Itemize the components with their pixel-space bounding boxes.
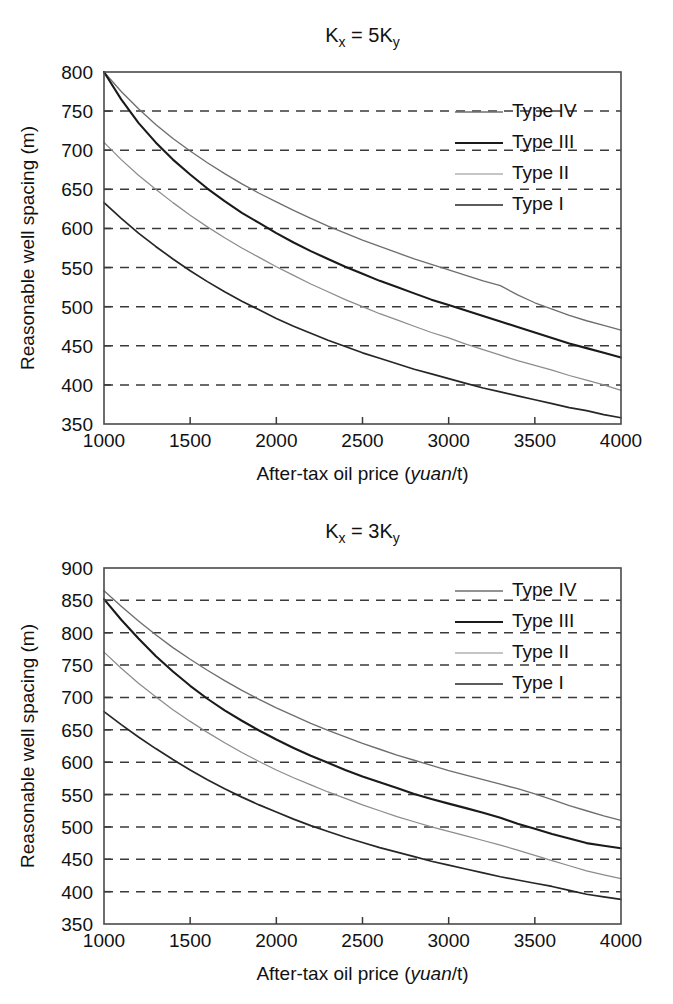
y-tick-label: 400: [61, 882, 93, 903]
x-tick-label: 1000: [83, 430, 125, 451]
legend-label-type-ii: Type II: [512, 162, 569, 183]
y-tick-label: 700: [61, 687, 93, 708]
panel-title: Kx = 3Ky: [325, 520, 400, 546]
x-tick-label: 2500: [341, 430, 383, 451]
y-tick-label: 500: [61, 297, 93, 318]
x-tick-label: 2000: [255, 430, 297, 451]
y-axis-title: Reasonable well spacing (m): [17, 126, 38, 370]
legend-label-type-iii: Type III: [512, 131, 574, 152]
y-tick-label: 750: [61, 655, 93, 676]
series-group: [104, 591, 621, 900]
y-tick-label: 600: [61, 218, 93, 239]
legend: Type IVType IIIType IIType I: [455, 579, 577, 693]
x-axis-title: After-tax oil price (yuan/t): [256, 963, 468, 984]
x-tick-label: 4000: [600, 930, 642, 951]
series-line-type-iii: [104, 599, 621, 848]
chart-panel-bottom: Kx = 3Ky35040045050055060065070075080085…: [0, 496, 673, 1004]
y-tick-label: 450: [61, 849, 93, 870]
y-tick-label: 800: [61, 623, 93, 644]
y-tick-label: 700: [61, 140, 93, 161]
y-tick-label: 550: [61, 258, 93, 279]
legend: Type IVType IIIType IIType I: [455, 100, 577, 214]
y-tick-label: 600: [61, 752, 93, 773]
x-tick-label: 3000: [428, 430, 470, 451]
x-tick-label: 3000: [428, 930, 470, 951]
x-tick-label: 3500: [514, 430, 556, 451]
y-axis-title: Reasonable well spacing (m): [17, 624, 38, 868]
legend-label-type-i: Type I: [512, 193, 564, 214]
x-tick-label: 4000: [600, 430, 642, 451]
legend-label-type-iv: Type IV: [512, 579, 577, 600]
x-tick-label: 2000: [255, 930, 297, 951]
gridlines: [104, 111, 621, 385]
x-tick-label: 2500: [341, 930, 383, 951]
chart-panel-top: Kx = 5Ky35040045050055060065070075080010…: [0, 0, 673, 500]
y-tick-label: 500: [61, 817, 93, 838]
y-tick-label: 900: [61, 558, 93, 579]
legend-label-type-i: Type I: [512, 672, 564, 693]
y-tick-label: 850: [61, 590, 93, 611]
x-tick-label: 3500: [514, 930, 556, 951]
y-tick-label: 800: [61, 62, 93, 83]
x-axis: 1000150020002500300035004000: [83, 417, 642, 451]
x-axis-title: After-tax oil price (yuan/t): [256, 463, 468, 484]
panel-title: Kx = 5Ky: [325, 24, 400, 50]
y-tick-label: 400: [61, 375, 93, 396]
figure-container: Kx = 5Ky35040045050055060065070075080010…: [0, 0, 673, 1004]
plot-frame: [104, 72, 621, 424]
legend-label-type-iii: Type III: [512, 610, 574, 631]
x-axis: 1000150020002500300035004000: [83, 917, 642, 951]
series-group: [104, 72, 621, 418]
y-tick-label: 550: [61, 785, 93, 806]
y-tick-label: 450: [61, 336, 93, 357]
x-tick-label: 1000: [83, 930, 125, 951]
x-tick-label: 1500: [169, 930, 211, 951]
y-tick-label: 650: [61, 720, 93, 741]
x-tick-label: 1500: [169, 430, 211, 451]
y-tick-label: 750: [61, 101, 93, 122]
y-tick-label: 650: [61, 179, 93, 200]
legend-label-type-iv: Type IV: [512, 100, 577, 121]
legend-label-type-ii: Type II: [512, 641, 569, 662]
